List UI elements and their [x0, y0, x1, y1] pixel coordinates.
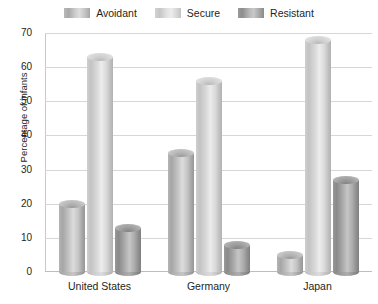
chart-legend: Avoidant Secure Resistant [0, 4, 378, 22]
legend-label-avoidant: Avoidant [96, 8, 137, 19]
y-tick-label-50: 50 [4, 96, 32, 106]
legend-item-avoidant: Avoidant [64, 8, 137, 19]
secure-swatch-icon [155, 8, 181, 18]
y-tick-label-20: 20 [4, 199, 32, 209]
bar-japan-avoidant [277, 255, 303, 272]
plot-area: 010203040506070 [45, 33, 372, 272]
y-tick-label-60: 60 [4, 62, 32, 72]
bar-japan-resistant [333, 180, 359, 272]
bar-cylinder-body [196, 81, 222, 272]
bar-group-united-states [45, 33, 154, 272]
bar-chart: Avoidant Secure Resistant Percentage of … [0, 0, 378, 304]
bar-united-states-resistant [115, 228, 141, 272]
legend-label-secure: Secure [187, 8, 220, 19]
bar-group-germany [154, 33, 263, 272]
resistant-swatch-icon [238, 8, 264, 18]
y-tick-label-70: 70 [4, 28, 32, 38]
bar-cylinder-body [59, 204, 85, 272]
bar-top-ellipse [59, 200, 85, 208]
bar-germany-avoidant [168, 153, 194, 273]
bar-top-ellipse [277, 251, 303, 259]
bar-japan-secure [305, 40, 331, 272]
bar-top-ellipse [196, 77, 222, 85]
bar-top-ellipse [305, 36, 331, 44]
y-tick-label-0: 0 [4, 267, 32, 277]
y-tick-label-40: 40 [4, 130, 32, 140]
legend-label-resistant: Resistant [270, 8, 314, 19]
y-axis-title: Percentage of infants [18, 33, 29, 203]
bar-cylinder-body [305, 40, 331, 272]
legend-item-resistant: Resistant [238, 8, 314, 19]
bar-top-ellipse [168, 149, 194, 157]
bar-group-japan [263, 33, 372, 272]
bar-cylinder-body [224, 245, 250, 272]
avoidant-swatch-icon [64, 8, 90, 18]
bar-cylinder-body [115, 228, 141, 272]
bar-united-states-avoidant [59, 204, 85, 272]
y-tick-label-10: 10 [4, 233, 32, 243]
bar-united-states-secure [87, 57, 113, 272]
bar-germany-resistant [224, 245, 250, 272]
x-tick-label-united-states: United States [45, 280, 154, 292]
bar-top-ellipse [115, 224, 141, 232]
x-tick-label-germany: Germany [154, 280, 263, 292]
bar-germany-secure [196, 81, 222, 272]
bar-top-ellipse [87, 53, 113, 61]
bar-cylinder-body [168, 153, 194, 273]
x-tick-label-japan: Japan [263, 280, 372, 292]
bar-top-ellipse [224, 241, 250, 249]
bar-cylinder-body [87, 57, 113, 272]
bar-cylinder-body [333, 180, 359, 272]
y-tick-label-30: 30 [4, 165, 32, 175]
legend-item-secure: Secure [155, 8, 220, 19]
bar-top-ellipse [333, 176, 359, 184]
